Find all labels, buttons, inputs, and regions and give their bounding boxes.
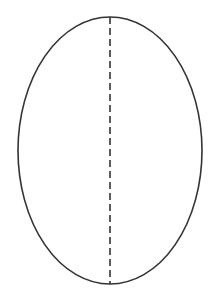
ellipse-diagram (0, 0, 213, 302)
diagram-canvas (0, 0, 213, 302)
